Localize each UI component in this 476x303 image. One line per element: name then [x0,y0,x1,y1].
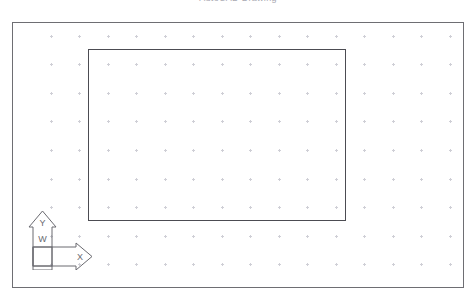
grid-dot [278,235,281,238]
grid-dot [420,120,423,123]
grid-dot [392,178,395,181]
grid-dot [392,120,395,123]
grid-dot [363,63,366,66]
grid-dot [249,35,252,38]
grid-dot [221,35,224,38]
grid-dot [221,235,224,238]
origin-box-label: W [38,234,47,244]
grid-dot [164,235,167,238]
grid-dot [392,206,395,209]
grid-dot [306,35,309,38]
rectangle-shape[interactable] [88,49,346,221]
origin-square [33,247,52,266]
grid-dot [78,149,81,152]
grid-dot [192,235,195,238]
grid-dot [449,235,452,238]
grid-dot [363,178,366,181]
grid-dot [50,178,53,181]
grid-dot [392,35,395,38]
grid-dot [420,149,423,152]
clipped-title-text-value: AutoCAD Drawing [199,0,277,3]
grid-dot [278,263,281,266]
grid-dot [164,263,167,266]
grid-dot [107,35,110,38]
grid-dot [335,35,338,38]
y-axis-label: Y [39,218,45,228]
grid-dot [164,35,167,38]
grid-dot [50,35,53,38]
drawing-canvas-app: AutoCAD Drawing Y X W [0,0,476,303]
coordinate-axis-icon: Y X W [28,209,94,270]
grid-dot [107,235,110,238]
grid-dot [449,63,452,66]
grid-dot [449,92,452,95]
grid-dot [78,92,81,95]
clipped-title-text: AutoCAD Drawing [0,0,476,9]
grid-dot [135,263,138,266]
grid-dot [363,263,366,266]
grid-dot [392,263,395,266]
grid-dot [50,149,53,152]
grid-dot [420,92,423,95]
grid-dot [306,235,309,238]
grid-dot [50,63,53,66]
grid-dot [420,35,423,38]
grid-dot [78,120,81,123]
grid-dot [420,206,423,209]
grid-dot [449,206,452,209]
grid-dot [192,35,195,38]
grid-dot [78,178,81,181]
grid-dot [363,35,366,38]
grid-dot [392,235,395,238]
grid-dot [78,35,81,38]
grid-dot [420,63,423,66]
x-axis-label: X [77,252,83,262]
grid-dot [420,263,423,266]
grid-dot [50,120,53,123]
grid-dot [449,35,452,38]
grid-dot [50,92,53,95]
grid-dot [135,235,138,238]
grid-dot [78,63,81,66]
grid-dot [306,263,309,266]
grid-dot [363,206,366,209]
grid-dot [363,92,366,95]
grid-dot [420,235,423,238]
grid-dot [392,92,395,95]
grid-dot [249,235,252,238]
grid-dot [107,263,110,266]
grid-dot [221,263,224,266]
grid-dot [449,178,452,181]
grid-dot [449,149,452,152]
coordinate-axis-indicator: Y X W [28,209,94,270]
grid-dot [392,63,395,66]
grid-dot [449,120,452,123]
grid-dot [135,35,138,38]
grid-dot [363,235,366,238]
grid-dot [335,263,338,266]
grid-dot [363,149,366,152]
grid-dot [420,178,423,181]
grid-dot [449,263,452,266]
grid-dot [192,263,195,266]
grid-dot [249,263,252,266]
grid-dot [335,235,338,238]
grid-dot [392,149,395,152]
grid-dot [363,120,366,123]
grid-dot [278,35,281,38]
